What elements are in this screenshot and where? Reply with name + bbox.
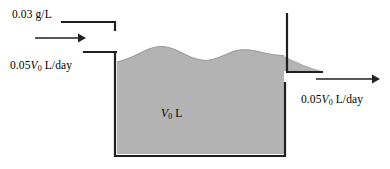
outflow-arrow	[316, 75, 380, 84]
inflow-rate-unit: L/day	[42, 59, 72, 71]
tank-volume-unit: L	[172, 107, 182, 119]
inflow-arrow	[35, 34, 86, 43]
tank-water-fill	[117, 46, 284, 154]
inflow-concentration-label: 0.03 g/L	[12, 9, 52, 21]
outflow-rate-prefix: 0.05	[301, 93, 322, 105]
tank-volume-label: V0 L	[161, 108, 182, 121]
outflow-rate-unit: L/day	[333, 93, 363, 105]
mixing-tank-figure: 0.03 g/L 0.05V0 L/day V0 L 0.05V0 L/day	[0, 0, 390, 169]
outflow-rate-variable: V	[322, 93, 329, 105]
outflow-rate-label: 0.05V0 L/day	[301, 94, 363, 107]
inflow-rate-variable: V	[31, 59, 38, 71]
overflow-spill	[284, 56, 322, 71]
inflow-rate-prefix: 0.05	[10, 59, 31, 71]
diagram-canvas	[0, 0, 390, 169]
inflow-rate-label: 0.05V0 L/day	[10, 60, 72, 73]
inlet-pipe-upper-wall	[62, 22, 115, 30]
